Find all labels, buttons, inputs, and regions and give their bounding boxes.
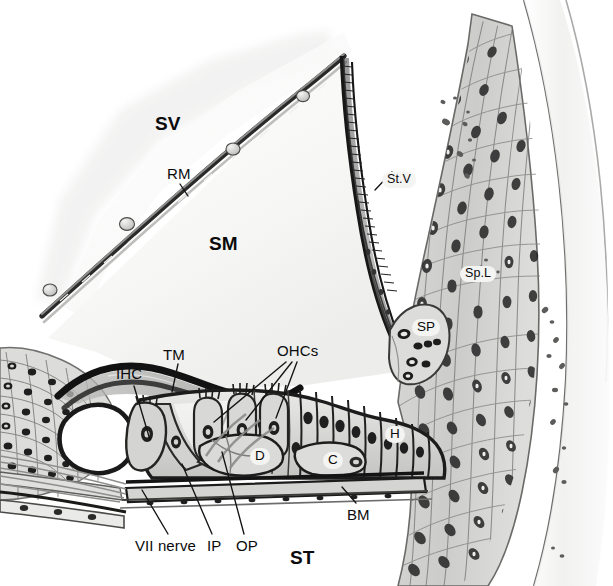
inner-sulcus <box>60 405 135 473</box>
label-vii-nerve: VII nerve <box>135 538 196 553</box>
cochlea-illustration <box>0 0 613 586</box>
label-tectorial-membrane: TM <box>163 347 185 362</box>
label-stria-vascularis: St.V <box>382 172 416 188</box>
label-deiters-cells: D <box>250 448 270 465</box>
label-scala-media: SM <box>209 234 238 253</box>
label-scala-tympani: ST <box>290 548 314 567</box>
label-spiral-prominence: SP <box>412 319 440 336</box>
label-basilar-membrane: BM <box>347 507 370 522</box>
label-inner-hair-cell: IHC <box>116 366 142 381</box>
label-outer-hair-cells: OHCs <box>277 343 318 358</box>
label-outer-pillar: OP <box>236 538 258 553</box>
label-claudius-cells: C <box>323 452 343 469</box>
label-inner-pillar: IP <box>207 538 221 553</box>
label-reissners-membrane: RM <box>167 166 191 181</box>
label-scala-vestibuli: SV <box>155 114 181 133</box>
label-spiral-ligament: Sp.L <box>460 266 496 282</box>
cochlea-cross-section-figure: SV RM SM St.V Sp.L SP TM IHC OHCs H D C … <box>0 0 613 586</box>
label-hensen-cells: H <box>385 426 405 443</box>
